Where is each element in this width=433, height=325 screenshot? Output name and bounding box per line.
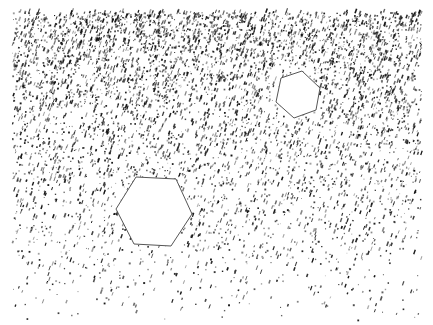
shapes-layer [0,0,433,325]
stimulus-canvas [0,0,433,325]
small-hexagon [276,71,320,118]
large-hexagon [116,177,192,246]
